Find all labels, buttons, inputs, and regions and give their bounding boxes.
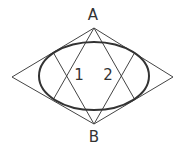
label-b: B [89,130,99,145]
line-a-to-lower-left [53,28,94,100]
ellipse [39,42,149,110]
diagram-canvas: A B 1 2 [0,0,173,154]
rhombus-ellipse-figure [0,0,173,154]
label-a: A [88,8,98,23]
line-a-to-lower-right [94,28,135,100]
line-b-to-upper-right [94,52,135,124]
label-region-1: 1 [74,68,84,83]
label-region-2: 2 [103,68,113,83]
line-b-to-upper-left [53,52,94,124]
